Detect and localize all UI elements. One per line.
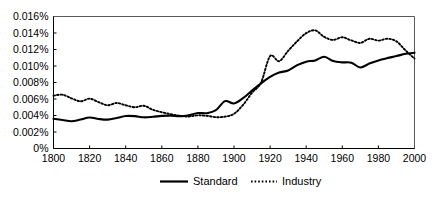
y-axis-tick-label: 0.014%	[13, 27, 49, 39]
legend-label-industry: Industry	[282, 175, 322, 187]
y-axis-tick-label: 0.016%	[13, 10, 49, 22]
x-axis-tick-label: 1860	[150, 152, 174, 164]
x-axis-tick-label: 1800	[42, 152, 66, 164]
x-axis-tick-labels: 1800182018401860188019001920194019601980…	[42, 152, 427, 164]
y-axis-tick-label: 0.002%	[13, 126, 49, 138]
y-axis-tick-labels: 0%0.002%0.004%0.006%0.008%0.010%0.012%0.…	[13, 10, 49, 154]
x-axis-tick-label: 1900	[222, 152, 246, 164]
x-axis-tick-label: 1820	[78, 152, 102, 164]
legend-label-standard: Standard	[193, 175, 238, 187]
y-axis-tick-label: 0.004%	[13, 109, 49, 121]
x-axis-tick-label: 1960	[331, 152, 355, 164]
x-axis-tick-label: 1920	[258, 152, 282, 164]
x-axis-tick-label: 1880	[186, 152, 210, 164]
x-axis-tick-label: 2000	[403, 152, 427, 164]
x-axis-tick-label: 1980	[367, 152, 391, 164]
line-chart: 0%0.002%0.004%0.006%0.008%0.010%0.012%0.…	[0, 0, 438, 204]
chart-background	[0, 0, 438, 204]
x-axis-tick-label: 1840	[114, 152, 138, 164]
y-axis-tick-label: 0.008%	[13, 76, 49, 88]
y-axis-tick-label: 0.012%	[13, 43, 49, 55]
y-axis-tick-label: 0.010%	[13, 60, 49, 72]
x-axis-tick-label: 1940	[295, 152, 319, 164]
chart-container: 0%0.002%0.004%0.006%0.008%0.010%0.012%0.…	[0, 0, 438, 204]
y-axis-tick-label: 0.006%	[13, 93, 49, 105]
